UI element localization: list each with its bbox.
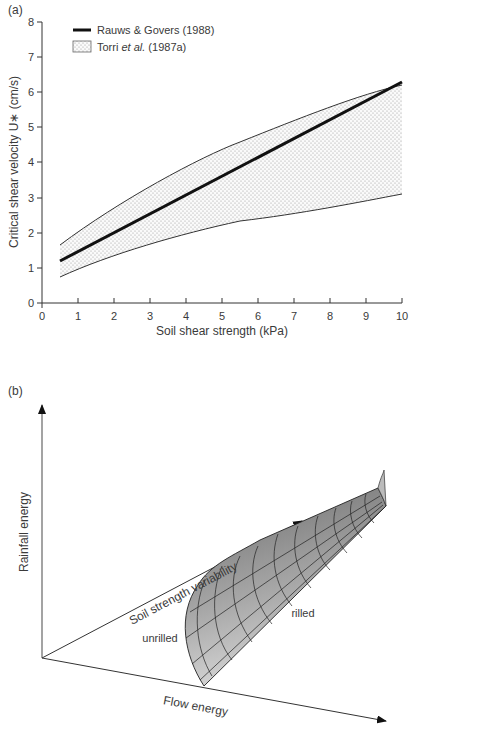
svg-text:8: 8 (28, 16, 34, 28)
legend-rauws-label: Rauws & Govers (1988) (97, 24, 214, 36)
y-ticks (37, 22, 42, 303)
unrilled-label: unrilled (142, 632, 177, 644)
legend-torri-label: Torri et al. (1987a) (97, 41, 186, 53)
rainfall-energy-label: Rainfall energy (17, 492, 31, 572)
erosion-surface (185, 488, 386, 686)
svg-text:2: 2 (28, 227, 34, 239)
svg-text:9: 9 (363, 310, 369, 322)
svg-text:0: 0 (39, 310, 45, 322)
svg-text:0: 0 (28, 297, 34, 309)
panel-a-tag: (a) (8, 3, 23, 17)
svg-text:7: 7 (291, 310, 297, 322)
panel-b-tag: (b) (8, 384, 23, 398)
svg-text:6: 6 (255, 310, 261, 322)
figure: (a) 0 1 2 3 4 5 6 7 (0, 0, 503, 733)
panel-b: (b) Rainfall energy (8, 384, 386, 721)
svg-text:6: 6 (28, 86, 34, 98)
svg-text:8: 8 (327, 310, 333, 322)
svg-text:7: 7 (28, 51, 34, 63)
svg-text:3: 3 (147, 310, 153, 322)
svg-text:1: 1 (28, 262, 34, 274)
y-tick-labels: 0 1 2 3 4 5 6 7 8 (28, 16, 34, 309)
x-tick-labels: 0 1 2 3 4 5 6 7 8 9 10 (39, 310, 408, 322)
rilled-label: rilled (291, 607, 314, 619)
svg-text:10: 10 (396, 310, 408, 322)
legend: Rauws & Govers (1988) Torri et al. (1987… (73, 24, 214, 53)
panel-a: (a) 0 1 2 3 4 5 6 7 (7, 3, 408, 338)
legend-torri-swatch (73, 41, 91, 52)
svg-text:5: 5 (28, 121, 34, 133)
svg-text:5: 5 (219, 310, 225, 322)
svg-text:2: 2 (111, 310, 117, 322)
x-axis-label: Soil shear strength (kPa) (156, 324, 288, 338)
svg-text:4: 4 (183, 310, 189, 322)
svg-text:4: 4 (28, 156, 34, 168)
y-axis-label: Critical shear velocity U∗ (cm/s) (7, 76, 21, 248)
flow-energy-label: Flow energy (162, 693, 229, 719)
svg-text:1: 1 (75, 310, 81, 322)
svg-text:3: 3 (28, 192, 34, 204)
torri-band (60, 85, 402, 277)
